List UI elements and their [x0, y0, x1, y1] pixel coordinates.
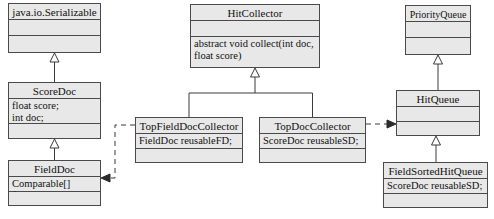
class-name-fielddoc: FieldDoc [9, 161, 100, 177]
class-operations-fielddoc [9, 192, 100, 205]
edge-collectors-to-hitcollector [189, 68, 313, 117]
class-attributes-priorityqueue [406, 22, 470, 38]
class-operations-hitcollector: abstract void collect(int doc, float sco… [191, 37, 319, 67]
class-box-scoredoc[interactable]: ScoreDoc float score; int doc; [8, 82, 101, 139]
edge-topfielddoccollector-to-fielddoc [101, 125, 135, 182]
class-name-topfielddoccollector: TopFieldDocCollector [136, 118, 242, 134]
uml-class-diagram: java.io.Serializable ScoreDoc float scor… [0, 0, 494, 219]
class-operations-fieldsortedhitqueue [384, 194, 487, 207]
class-name-hitqueue: HitQueue [397, 91, 479, 107]
edge-topdoccollector-to-hitqueue [366, 120, 396, 128]
edge-fielddoc-to-scoredoc [50, 139, 59, 160]
class-operations-hitqueue [397, 122, 479, 135]
class-attributes-java-io-serializable [9, 20, 100, 36]
class-box-hitqueue[interactable]: HitQueue [396, 90, 480, 136]
class-name-fieldsortedhitqueue: FieldSortedHitQueue [384, 163, 487, 179]
class-name-java-io-serializable: java.io.Serializable [9, 4, 100, 20]
class-name-scoredoc: ScoreDoc [9, 83, 100, 99]
edge-hitqueue-to-priorityqueue [434, 55, 443, 90]
class-operations-topdoccollector [260, 149, 365, 162]
class-attributes-scoredoc: float score; int doc; [9, 99, 100, 124]
class-name-priorityqueue: PriorityQueue [406, 6, 470, 22]
class-attributes-hitcollector [191, 21, 319, 37]
class-box-priorityqueue[interactable]: PriorityQueue [405, 5, 471, 55]
class-box-fielddoc[interactable]: FieldDoc Comparable[] fields; [8, 160, 101, 206]
class-operations-topfielddoccollector [136, 149, 242, 162]
class-operations-priorityqueue [406, 38, 470, 54]
class-box-hitcollector[interactable]: HitCollector abstract void collect(int d… [190, 4, 320, 68]
class-operations-scoredoc [9, 124, 100, 138]
edge-scoredoc-to-serializable [50, 53, 59, 82]
edge-fieldsortedhitqueue-to-hitqueue [432, 136, 441, 162]
class-name-topdoccollector: TopDocCollector [260, 118, 365, 134]
class-attributes-topfielddoccollector: FieldDoc reusableFD; [136, 134, 242, 149]
class-box-java-io-serializable[interactable]: java.io.Serializable [8, 3, 101, 53]
class-name-hitcollector: HitCollector [191, 5, 319, 21]
class-box-topfielddoccollector[interactable]: TopFieldDocCollector FieldDoc reusableFD… [135, 117, 243, 163]
class-operations-java-io-serializable [9, 36, 100, 52]
class-attributes-topdoccollector: ScoreDoc reusableSD; [260, 134, 365, 149]
class-box-fieldsortedhitqueue[interactable]: FieldSortedHitQueue ScoreDoc reusableSD; [383, 162, 488, 208]
class-attributes-fielddoc: Comparable[] fields; [9, 177, 100, 192]
class-attributes-fieldsortedhitqueue: ScoreDoc reusableSD; [384, 179, 487, 194]
class-box-topdoccollector[interactable]: TopDocCollector ScoreDoc reusableSD; [259, 117, 366, 163]
class-attributes-hitqueue [397, 107, 479, 122]
